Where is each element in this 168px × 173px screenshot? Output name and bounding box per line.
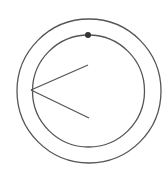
angle-ray-lower bbox=[31, 90, 89, 118]
center-point-dot bbox=[85, 32, 91, 38]
inner-circle bbox=[33, 35, 145, 147]
angle-ray-upper bbox=[31, 65, 88, 90]
outer-circle bbox=[17, 19, 161, 163]
concentric-circles-diagram bbox=[0, 0, 168, 173]
